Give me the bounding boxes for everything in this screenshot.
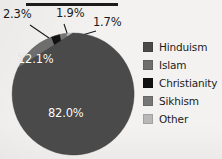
legend-item-hinduism[interactable]: Hinduism (143, 38, 222, 56)
callout-label-other: 1.7% (93, 17, 121, 29)
legend-label-christianity: Christianity (159, 78, 217, 89)
legend-item-christianity[interactable]: Christianity (143, 74, 222, 92)
legend-label-hinduism: Hinduism (159, 42, 207, 53)
legend-swatch-christianity (143, 78, 153, 88)
legend-label-sikhism: Sikhism (159, 96, 199, 107)
callout-label-christianity: 2.3% (3, 9, 31, 21)
slice-label-islam: 12.1% (18, 54, 54, 66)
legend-swatch-hinduism (143, 42, 153, 52)
pie-chart-graphic (0, 0, 143, 159)
pie-chart-screenshot: 82.0% 12.1% 2.3% 1.9% 1.7% Hinduism Isla… (0, 0, 222, 159)
legend-label-islam: Islam (159, 60, 186, 71)
legend-item-sikhism[interactable]: Sikhism (143, 92, 222, 110)
legend-swatch-sikhism (143, 96, 153, 106)
slice-label-hinduism: 82.0% (48, 108, 84, 120)
chart-legend: Hinduism Islam Christianity Sikhism Othe… (143, 38, 222, 128)
pie-chart-area: 82.0% 12.1% 2.3% 1.9% 1.7% (0, 0, 143, 159)
leader-line-christianity (30, 25, 49, 38)
legend-label-other: Other (159, 114, 188, 125)
legend-item-islam[interactable]: Islam (143, 56, 222, 74)
callout-label-sikhism: 1.9% (56, 8, 84, 20)
legend-swatch-islam (143, 60, 153, 70)
legend-swatch-other (143, 114, 153, 124)
legend-item-other[interactable]: Other (143, 110, 222, 128)
